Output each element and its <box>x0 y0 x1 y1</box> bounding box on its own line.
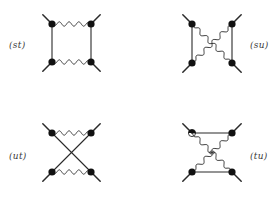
label-st: (st) <box>9 40 25 50</box>
diagram-st-vertex-bl <box>48 58 55 65</box>
diagram-st-boson-top <box>52 22 91 26</box>
diagram-st-boson-bottom <box>52 60 91 64</box>
diagram-su-vertex-br <box>228 59 235 66</box>
diagram-tu-vertex-bl <box>188 168 195 175</box>
diagram-su-vertex-bl <box>188 59 195 66</box>
label-ut: (ut) <box>9 151 27 161</box>
diagram-su-vertex-tl <box>188 20 195 27</box>
diagram-ut-vertex-tr <box>87 129 94 136</box>
label-su: (su) <box>250 40 269 50</box>
diagram-ut-boson-bottom <box>52 170 91 174</box>
diagram-tu-vertex-tr <box>228 129 235 136</box>
diagram-st-vertex-tr <box>87 20 94 27</box>
diagram-st-vertex-tl <box>48 20 55 27</box>
diagram-su-vertex-tr <box>228 20 235 27</box>
diagram-ut-boson-top <box>52 131 91 135</box>
diagram-su-boson-cross-b <box>192 24 232 63</box>
diagram-tu-boson-cross-b <box>192 133 232 172</box>
diagram-ut-vertex-bl <box>48 168 55 175</box>
diagram-st-vertex-br <box>87 58 94 65</box>
diagram-ut-vertex-tl <box>48 129 55 136</box>
feynman-diagram-canvas <box>0 0 279 198</box>
label-tu: (tu) <box>250 151 268 161</box>
diagram-tu-vertex-br <box>228 168 235 175</box>
diagram-ut-vertex-br <box>87 168 94 175</box>
